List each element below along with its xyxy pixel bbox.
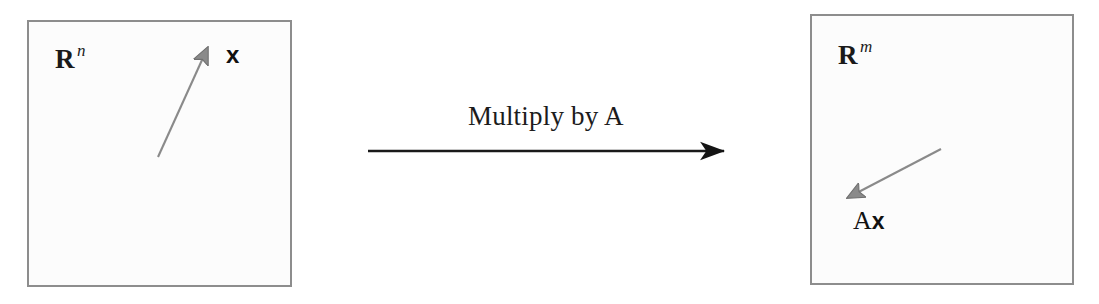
linear-transformation-figure: Rn x Multiply by A Rm Ax <box>0 0 1099 304</box>
source-set-exponent: n <box>77 41 86 60</box>
target-vector-label: Ax <box>853 208 885 234</box>
transform-caption: Multiply by A <box>468 102 624 132</box>
source-vector-label: x <box>226 43 239 67</box>
source-set-label: Rn <box>55 44 84 73</box>
target-set-exponent: m <box>860 37 873 56</box>
target-set-label: Rm <box>838 40 871 69</box>
target-vector-label-vector: x <box>872 208 885 234</box>
target-vector-label-matrix: A <box>853 206 872 235</box>
source-set-symbol: R <box>55 44 75 74</box>
target-set-symbol: R <box>838 40 858 70</box>
